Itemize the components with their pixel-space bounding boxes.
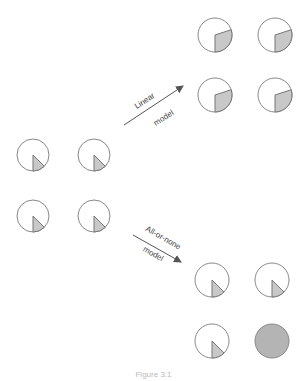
diagram-canvas: Linear model All-or-none model	[0, 0, 307, 381]
fully-shaded-circle	[255, 324, 289, 358]
linear-model-label-line2: model	[152, 108, 175, 128]
all-or-none-model-label-line2: model	[142, 244, 166, 263]
all-or-none-model-circles-group	[195, 263, 289, 358]
figure-caption: Figure 3.1	[0, 370, 307, 379]
linear-model-label-line1: Linear	[133, 91, 157, 111]
initial-circles-group	[17, 139, 110, 232]
linear-model-circles-group	[198, 18, 292, 112]
